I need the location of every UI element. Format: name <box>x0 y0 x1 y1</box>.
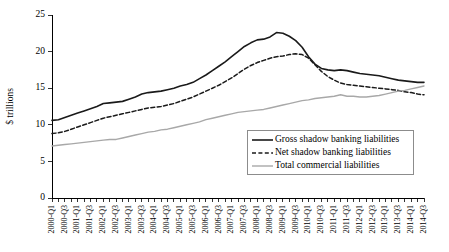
x-tick-label: 2013-Q1 <box>380 205 389 233</box>
x-tick-label: 2011-Q3 <box>342 205 351 233</box>
x-tick-label: 2012-Q1 <box>355 205 364 233</box>
x-tick-label: 2007-Q3 <box>239 205 248 233</box>
legend-label-0: Gross shadow banking liabilities <box>275 134 400 144</box>
y-tick-labels: 0510152025 <box>36 9 46 202</box>
y-tick-label: 5 <box>40 156 45 166</box>
x-tick-label: 2001-Q1 <box>72 205 81 233</box>
x-tick-labels: 2000-Q12000-Q32001-Q12001-Q32002-Q12002-… <box>47 205 428 233</box>
x-tick-label: 2008-Q3 <box>265 205 274 233</box>
x-tick-label: 2014-Q1 <box>406 205 415 233</box>
x-tick-label: 2010-Q1 <box>303 205 312 233</box>
x-tick-label: 2014-Q3 <box>419 205 428 233</box>
x-tick-label: 2000-Q1 <box>47 205 56 233</box>
chart-legend: Gross shadow banking liabilitiesNet shad… <box>247 130 413 174</box>
legend-label-1: Net shadow banking liabilities <box>275 147 391 157</box>
x-tick-label: 2006-Q3 <box>214 205 223 233</box>
x-tick-label: 2007-Q1 <box>226 205 235 233</box>
x-tick-label: 2005-Q1 <box>175 205 184 233</box>
x-tick-label: 2001-Q3 <box>85 205 94 233</box>
x-tick-label: 2009-Q1 <box>278 205 287 233</box>
y-tick-label: 20 <box>36 46 46 56</box>
y-axis-group: 0510152025 $ trillions <box>5 9 52 202</box>
series-line-0 <box>52 33 424 121</box>
y-tick-label: 25 <box>36 9 46 19</box>
x-tick-label: 2002-Q3 <box>111 205 120 233</box>
x-tick-marks <box>52 198 424 202</box>
y-tick-label: 0 <box>40 192 45 202</box>
x-tick-label: 2000-Q3 <box>60 205 69 233</box>
x-tick-label: 2013-Q3 <box>393 205 402 233</box>
x-tick-label: 2004-Q3 <box>162 205 171 233</box>
legend-label-2: Total commercial liabilities <box>275 160 380 170</box>
x-tick-label: 2005-Q3 <box>188 205 197 233</box>
chart-container: 0510152025 $ trillions 2000-Q12000-Q3200… <box>0 0 449 252</box>
y-tick-label: 10 <box>36 119 46 129</box>
x-tick-label: 2003-Q1 <box>124 205 133 233</box>
x-tick-label: 2010-Q3 <box>316 205 325 233</box>
x-tick-label: 2002-Q1 <box>98 205 107 233</box>
line-chart: 0510152025 $ trillions 2000-Q12000-Q3200… <box>0 0 449 252</box>
x-axis-group: 2000-Q12000-Q32001-Q12001-Q32002-Q12002-… <box>47 198 428 233</box>
y-tick-label: 15 <box>36 82 46 92</box>
x-tick-label: 2006-Q1 <box>201 205 210 233</box>
series-group <box>52 33 424 146</box>
series-line-1 <box>52 54 424 134</box>
x-tick-label: 2012-Q3 <box>368 205 377 233</box>
y-axis-title: $ trillions <box>5 88 15 125</box>
x-tick-label: 2009-Q3 <box>291 205 300 233</box>
x-tick-label: 2011-Q1 <box>329 205 338 233</box>
y-tick-marks <box>48 15 52 198</box>
x-tick-label: 2008-Q1 <box>252 205 261 233</box>
x-tick-label: 2004-Q1 <box>149 205 158 233</box>
x-tick-label: 2003-Q3 <box>137 205 146 233</box>
